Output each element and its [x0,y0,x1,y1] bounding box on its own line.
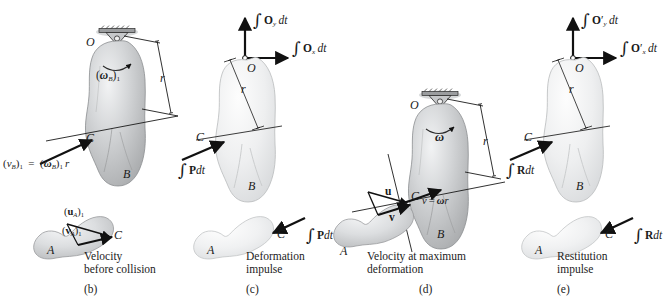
impulse-P-label-c: ∫ Pdt [178,163,205,180]
point-label-O-d: O [410,99,419,111]
panel-d-artwork [334,89,505,252]
point-label-C-c: C [196,131,204,143]
caption-c-line2: impulse [246,263,282,276]
point-label-C-b: C [86,132,94,144]
vector-label-u-d: u [385,186,391,198]
impulse-R-label-e-small: ∫ Rdt [634,228,662,245]
impulse-Oy-prime-label-e: ∫ O′y dt [581,13,618,30]
point-label-C-e: C [524,131,532,143]
caption-e-line1: Restitution [557,250,607,263]
caption-b-line1: Velocity [84,250,122,263]
caption-d-line1: Velocity at maximum [367,250,466,263]
omega-symbol-b: ω [100,69,108,81]
body-b-shape-panel-e [543,57,603,202]
velocity-equation-b: (vB)1 = (ωB)1 r [3,158,69,171]
angular-velocity-label-d: ω [435,131,444,144]
vector-label-u-b: (uA)1 [64,207,84,218]
body-label-A-c: A [207,244,214,256]
panel-b-artwork [34,26,178,259]
impulse-P-label-c-small: ∫ Pdt [306,228,333,245]
point-label-O-e: O [575,62,584,74]
vector-label-v-b: (vA)1 [62,226,81,237]
panel-tag-d: (d) [419,283,432,295]
point-label-C-c-small: C [277,228,285,240]
body-label-A-d: A [340,245,347,257]
point-label-O-b: O [86,36,95,48]
dimension-label-r-e: r [569,83,574,95]
caption-d-line2: deformation [367,263,423,276]
omega-index-b: 1 [116,75,120,83]
point-label-O-c: O [247,62,256,74]
body-label-B-d: B [437,228,444,240]
body-a-shape-panel-d [334,205,414,247]
body-label-B-c: B [248,180,255,192]
impulse-Ox-prime-label-e: ∫ O′x dt [620,41,657,58]
point-label-C-b-small: C [114,229,122,241]
panel-tag-b: (b) [84,283,97,295]
vector-label-v-d: v [389,212,395,224]
caption-b-line2: before collision [84,263,156,276]
caption-e-line2: impulse [557,263,593,276]
impulse-Oy-label-c: ∫ Oy dt [253,13,287,30]
body-label-B-e: B [576,180,583,192]
panel-tag-e: (e) [557,283,570,295]
velocity-equation-d: v = ωr [422,196,449,207]
body-b-shape-panel-b [85,41,145,186]
body-label-A-e: A [535,244,542,256]
body-label-B-b: B [123,168,130,180]
point-label-C-e-small: C [605,228,613,240]
point-label-C-d: C [411,190,419,202]
angular-velocity-label-b: (ωB)1 [96,70,120,83]
dimension-label-r-d: r [483,135,488,147]
body-label-A-b: A [47,244,54,256]
dimension-label-r-b: r [160,72,165,84]
figure-canvas: O (ωB)1 r C B (vB)1 = (ωB)1 r (uA)1 (vA)… [0,0,670,304]
caption-c-line1: Deformation [246,250,305,263]
impulse-R-label-e: ∫ Rdt [506,163,534,180]
impulse-Ox-label-c: ∫ Ox dt [292,41,326,58]
dimension-label-r-c: r [241,83,246,95]
panel-tag-c: (c) [246,283,259,295]
body-b-shape-panel-c [215,57,275,202]
